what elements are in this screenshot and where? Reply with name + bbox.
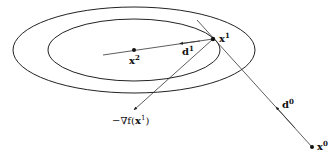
label-d1: d1 bbox=[182, 44, 194, 57]
label-x1: x1 bbox=[219, 31, 230, 44]
point-x0 bbox=[310, 145, 314, 149]
point-x1 bbox=[211, 37, 215, 41]
d0-arrow bbox=[277, 108, 295, 128]
label-d0: d0 bbox=[282, 97, 294, 110]
label-x0: x0 bbox=[317, 139, 328, 152]
negative-gradient-arrow bbox=[135, 39, 213, 109]
point-x2 bbox=[132, 48, 136, 52]
label-negative-gradient: −∇f(x1) bbox=[112, 114, 149, 126]
conjugate-gradient-diagram: x1 x2 x0 d1 d0 −∇f(x1) bbox=[0, 0, 336, 160]
label-x2: x2 bbox=[129, 53, 140, 66]
